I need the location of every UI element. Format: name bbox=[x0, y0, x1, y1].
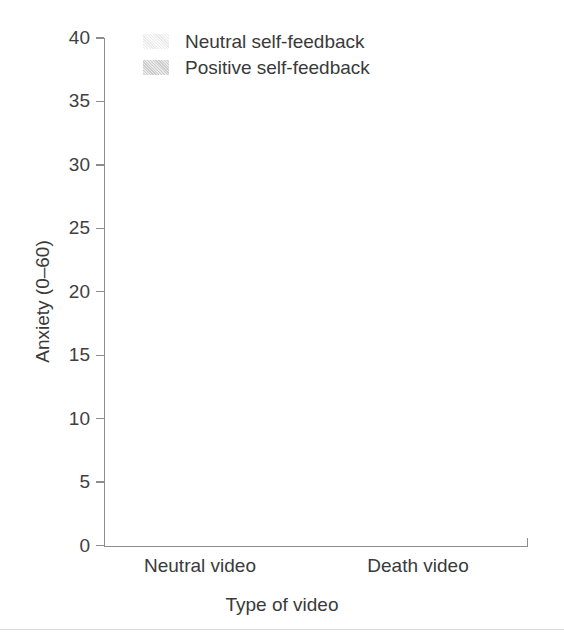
y-tick-label: 20 bbox=[50, 282, 90, 301]
y-tick-mark bbox=[96, 37, 104, 38]
legend-swatch-icon-neutral bbox=[143, 34, 169, 49]
y-tick-mark bbox=[96, 545, 104, 546]
y-tick-label: 10 bbox=[50, 409, 90, 428]
y-tick-label: 0 bbox=[50, 536, 90, 555]
legend-item-neutral-self-feedback: Neutral self-feedback bbox=[143, 28, 370, 54]
legend-swatch-icon-positive bbox=[143, 60, 169, 75]
y-tick-label: 35 bbox=[50, 91, 90, 110]
y-tick-label: 25 bbox=[50, 218, 90, 237]
legend-item-positive-self-feedback: Positive self-feedback bbox=[143, 54, 370, 80]
y-tick-label: 5 bbox=[50, 472, 90, 491]
legend-label-positive: Positive self-feedback bbox=[185, 58, 370, 77]
y-tick-mark bbox=[96, 101, 104, 102]
y-tick-label: 40 bbox=[50, 28, 90, 47]
x-category-label-death-video: Death video bbox=[316, 556, 520, 575]
y-tick-mark bbox=[96, 355, 104, 356]
y-tick-mark bbox=[96, 418, 104, 419]
bar-chart-figure: 0510152025303540 Neutral video Death vid… bbox=[0, 0, 564, 641]
y-axis-line bbox=[104, 38, 105, 547]
y-tick-label: 15 bbox=[50, 345, 90, 364]
y-tick-mark bbox=[96, 228, 104, 229]
y-tick-mark bbox=[96, 164, 104, 165]
y-axis-title: Anxiety (0–60) bbox=[33, 102, 52, 502]
page-divider-rule bbox=[0, 629, 564, 630]
chart-legend: Neutral self-feedback Positive self-feed… bbox=[143, 28, 370, 80]
y-tick-mark bbox=[96, 481, 104, 482]
y-tick-mark bbox=[96, 291, 104, 292]
x-axis-title: Type of video bbox=[0, 595, 564, 614]
x-axis-line bbox=[104, 546, 528, 547]
x-category-label-neutral-video: Neutral video bbox=[98, 556, 302, 575]
legend-label-neutral: Neutral self-feedback bbox=[185, 32, 365, 51]
y-tick-label: 30 bbox=[50, 155, 90, 174]
x-axis-end-cap bbox=[527, 538, 528, 546]
